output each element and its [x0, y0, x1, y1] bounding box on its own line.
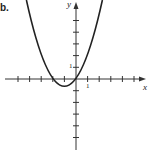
graph-canvas: [0, 0, 151, 153]
x-tick-label-1: 1: [86, 82, 90, 90]
x-axis-label: x: [143, 82, 147, 92]
y-axis-arrow-icon: [74, 2, 79, 9]
y-tick-label-1: 1: [69, 62, 73, 70]
x-axis-arrow-icon: [139, 77, 146, 82]
y-axis-label: y: [67, 0, 71, 9]
parabola-curve: [26, 0, 102, 86]
